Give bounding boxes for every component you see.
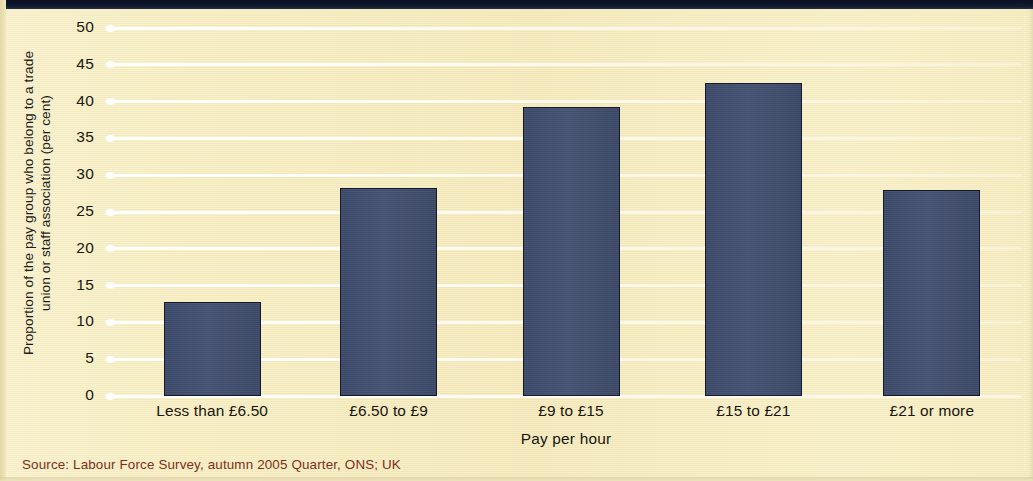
figure-top-border [0, 0, 1033, 9]
y-axis-tick-mark [105, 209, 116, 216]
y-axis-tick-label: 35 [34, 129, 94, 145]
x-axis-tick-label: £21 or more [832, 400, 1032, 422]
y-axis-tick-mark [105, 245, 116, 252]
bar [705, 83, 802, 396]
y-axis-tick-label: 5 [34, 350, 94, 366]
y-axis-tick-label: 20 [34, 240, 94, 256]
x-axis-tick-label: Less than £6.50 [112, 400, 312, 422]
y-axis-tick-mark [105, 356, 116, 363]
x-axis-tick-label: £6.50 to £9 [289, 400, 489, 422]
chart-figure: Proportion of the pay group who belong t… [0, 0, 1033, 481]
y-axis-tick-mark [105, 135, 116, 142]
x-axis-tick-label: £9 to £15 [471, 400, 671, 422]
y-axis-tick-mark [105, 393, 116, 400]
y-axis-tick-label: 40 [34, 93, 94, 109]
y-axis-tick-mark [105, 25, 116, 32]
bar [340, 188, 437, 396]
y-axis-tick-label: 0 [34, 387, 94, 403]
x-axis-title: Pay per hour [110, 430, 1022, 448]
gridline [110, 63, 1022, 66]
x-axis-tick-label: £15 to £21 [653, 400, 853, 422]
y-axis-tick-mark [105, 282, 116, 289]
y-axis-tick-labels: 05101520253035404550 [0, 28, 104, 396]
y-axis-tick-label: 50 [34, 19, 94, 35]
bar [523, 107, 620, 396]
y-axis-tick-mark [105, 61, 116, 68]
y-axis-tick-mark [105, 319, 116, 326]
bar [164, 302, 261, 396]
plot-area [110, 28, 1022, 396]
y-axis-tick-label: 45 [34, 56, 94, 72]
gridline [110, 100, 1022, 103]
y-axis-tick-label: 15 [34, 277, 94, 293]
y-axis-tick-label: 10 [34, 313, 94, 329]
y-axis-tick-label: 25 [34, 203, 94, 219]
source-note: Source: Labour Force Survey, autumn 2005… [22, 457, 401, 472]
y-axis-tick-mark [105, 172, 116, 179]
bar [883, 190, 980, 396]
gridline [110, 27, 1022, 30]
x-axis-tick-labels: Less than £6.50£6.50 to £9£9 to £15£15 t… [110, 400, 1022, 426]
y-axis-tick-mark [105, 98, 116, 105]
y-axis-tick-label: 30 [34, 166, 94, 182]
figure-bottom-edge [0, 477, 1033, 481]
